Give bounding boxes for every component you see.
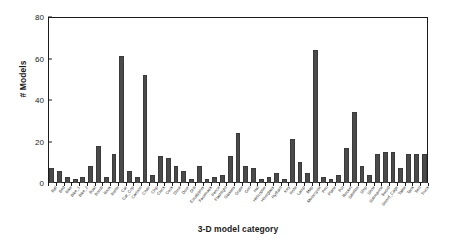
bar [181,171,186,183]
bar [305,173,310,183]
bar-chart-figure: # Models 020406080 BallBedBikeBike_1Bike… [0,0,453,244]
x-axis-tick-labels: BallBedBikeBike_1Bike_2BoatBombBookBottl… [48,185,428,223]
bar [174,166,179,183]
bar [96,146,101,183]
y-tick-mark [48,100,52,101]
x-tick-mark [428,183,429,186]
x-tick-label: Gun [243,185,252,194]
bar [391,152,396,183]
y-tick-label: 60 [22,54,44,63]
bar [344,148,349,183]
bar [360,166,365,183]
bar [143,75,148,183]
x-tick-label: Ball [50,185,58,193]
y-tick-label: 80 [22,13,44,22]
bar [112,154,117,183]
bar [197,166,202,183]
bar [383,152,388,183]
bar [406,154,411,183]
bar [127,171,132,183]
bar [251,168,256,183]
bar [336,175,341,183]
bar [236,133,241,183]
x-axis-title: 3-D model category [48,224,428,234]
bar [220,175,225,183]
bar [290,139,295,183]
y-tick-mark [48,141,52,142]
bar [398,168,403,183]
bar [367,175,372,183]
bar [274,173,279,183]
y-tick-mark [48,58,52,59]
y-tick-label: 0 [22,179,44,188]
bar [166,158,171,183]
bar [352,112,357,183]
bar [49,168,54,183]
bar [57,171,62,183]
bar [228,156,233,183]
bar [414,154,419,183]
plot-area [48,17,428,183]
bar [375,154,380,183]
bar [422,154,427,183]
bar [298,162,303,183]
y-tick-mark [48,17,52,18]
bar [243,166,248,183]
bar [158,156,163,183]
y-tick-label: 40 [22,96,44,105]
bar [88,166,93,183]
y-axis-tick-labels: 020406080 [22,0,44,244]
bar [119,56,124,183]
y-tick-label: 20 [22,137,44,146]
bar [150,175,155,183]
bar [313,50,318,183]
